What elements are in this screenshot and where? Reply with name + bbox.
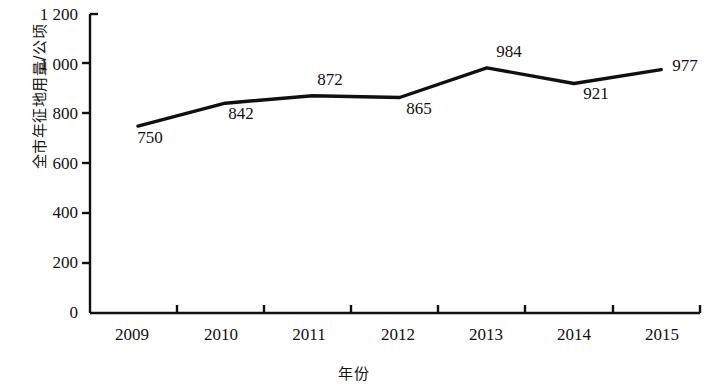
chart-canvas [0,0,708,392]
line-chart: 全市年征地用量/公顷 年份 0 200 400 600 800 1 000 1 … [0,0,708,392]
y-axis [90,14,98,313]
x-axis [90,305,700,313]
data-series-line [138,68,661,126]
